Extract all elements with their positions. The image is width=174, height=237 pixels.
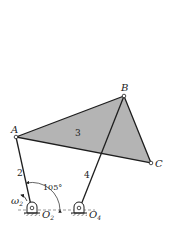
link-3-coupler (16, 96, 151, 163)
label-o2: O2 (42, 209, 54, 221)
label-b: B (120, 82, 128, 93)
label-link-3: 3 (75, 128, 81, 138)
joint-c (149, 161, 153, 165)
ground-pivot-o4 (71, 202, 87, 216)
label-omega: ω2 (11, 195, 23, 207)
label-a: A (10, 124, 18, 135)
label-link-2: 2 (17, 168, 23, 178)
joint-b (122, 94, 126, 98)
label-o4: O4 (89, 209, 101, 221)
linkage-diagram: A B C 3 2 4 105° ω2 O2 O4 (0, 0, 174, 237)
joint-a (14, 135, 18, 139)
label-angle: 105° (43, 183, 62, 192)
label-link-4: 4 (84, 170, 90, 180)
label-c: C (155, 158, 163, 169)
ground-pivot-o2 (24, 202, 40, 216)
